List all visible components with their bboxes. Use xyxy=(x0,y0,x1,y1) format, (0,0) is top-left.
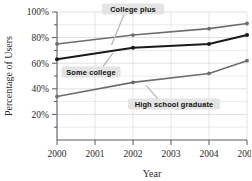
data-point xyxy=(207,72,211,76)
data-point xyxy=(245,59,249,63)
data-point xyxy=(245,33,249,37)
data-point xyxy=(207,42,211,46)
y-tick-label: 60% xyxy=(32,59,50,69)
callout-label: College plus xyxy=(110,5,156,14)
x-axis-title: Year xyxy=(143,168,162,179)
x-axis-ticks: 200020012002200320042005 xyxy=(48,140,252,159)
x-tick-label: 2004 xyxy=(200,149,219,159)
line-chart: 20%40%60%80%100% 20002001200220032004200… xyxy=(0,0,251,181)
data-point xyxy=(131,81,135,85)
data-point xyxy=(131,46,135,50)
chart-container: 20%40%60%80%100% 20002001200220032004200… xyxy=(0,0,251,181)
data-point xyxy=(245,22,249,26)
data-point xyxy=(207,27,211,31)
callout-label: Some college xyxy=(66,68,115,77)
x-tick-label: 2000 xyxy=(48,149,67,159)
data-point xyxy=(55,95,59,99)
y-axis-ticks: 20%40%60%80%100% xyxy=(27,7,57,127)
data-point xyxy=(55,42,59,46)
y-axis-title: Percentage of Users xyxy=(3,36,14,116)
y-tick-label: 40% xyxy=(32,84,50,94)
data-point xyxy=(55,57,59,61)
y-tick-label: 80% xyxy=(32,33,50,43)
callout-label: High school graduate xyxy=(135,100,214,109)
x-tick-label: 2001 xyxy=(86,149,105,159)
y-tick-label: 20% xyxy=(32,110,50,120)
x-tick-label: 2002 xyxy=(124,149,143,159)
data-point xyxy=(131,33,135,37)
x-tick-label: 2005 xyxy=(238,149,252,159)
x-tick-label: 2003 xyxy=(162,149,181,159)
callout-some-college: Some college xyxy=(62,67,121,78)
callout-high-school: High school graduate xyxy=(128,99,220,110)
callout-college-plus: College plus xyxy=(102,4,164,15)
y-tick-label: 100% xyxy=(27,7,49,17)
